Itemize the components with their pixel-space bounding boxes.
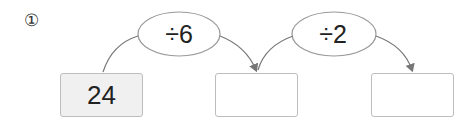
- answer-box-2[interactable]: [371, 73, 454, 117]
- operation-divide-2: ÷2: [292, 12, 374, 56]
- answer-box-1[interactable]: [215, 73, 298, 117]
- operation-divide-6: ÷6: [138, 12, 220, 56]
- start-value-box: 24: [60, 73, 143, 117]
